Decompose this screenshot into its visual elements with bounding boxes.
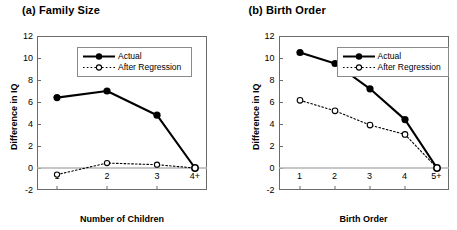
legend-swatch-solid-line-icon [342,51,376,62]
data-point [192,165,198,171]
data-point [402,132,408,138]
data-point [366,85,373,92]
legend-swatch-dotted-line-icon [342,62,376,73]
legend-label: Actual [378,51,402,62]
figure: (a) Family Size 12 10 8 6 4 2 0 -2 1 2 3… [0,0,457,230]
data-point [367,122,373,128]
legend-item-actual: Actual [82,51,186,62]
series-line-after-regression [57,163,195,175]
legend-item-after-regression: After Regression [342,62,443,73]
data-point [54,172,59,177]
data-point [153,112,160,119]
x-axis-title: Birth Order [279,214,449,224]
legend-item-actual: Actual [342,51,443,62]
data-point [154,162,159,167]
data-point [401,116,408,123]
legend-swatch-solid-line-icon [82,51,116,62]
y-axis-title: Difference in IQ [251,83,261,150]
plot-area-b: 12 10 8 6 4 2 0 -2 1 2 3 4 5+ [229,0,457,230]
data-point [332,108,338,114]
x-axis-title: Number of Children [37,214,207,224]
legend: Actual After Regression [77,47,192,77]
data-point [433,165,439,171]
legend-label: After Regression [118,62,181,73]
data-point [104,160,109,165]
legend-label: Actual [118,51,142,62]
data-point [53,94,60,101]
legend-swatch-dotted-line-icon [82,62,116,73]
series-line-after-regression [300,100,437,168]
series-canvas-b [229,0,457,230]
plot-area-a: 12 10 8 6 4 2 0 -2 1 2 3 4+ [0,0,229,230]
legend: Actual After Regression [337,47,449,77]
data-point [297,98,303,104]
legend-item-after-regression: After Regression [82,62,186,73]
data-point [296,49,303,56]
chart-panel-family-size: (a) Family Size 12 10 8 6 4 2 0 -2 1 2 3… [0,0,229,230]
data-point [103,87,110,94]
legend-label: After Regression [378,62,441,73]
chart-panel-birth-order: (b) Birth Order 12 10 8 6 4 2 0 -2 1 2 3… [229,0,457,230]
series-line-actual [57,91,195,168]
y-axis-title: Difference in IQ [9,83,19,150]
